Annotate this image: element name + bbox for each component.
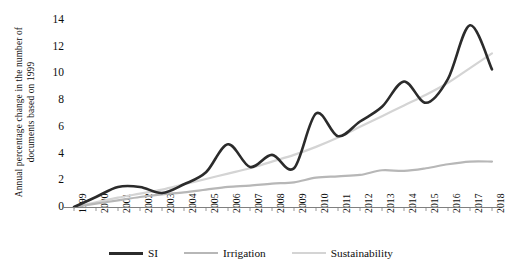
legend-swatch-icon [109,252,143,255]
legend-swatch-icon [292,252,326,254]
x-axis-tick-marks [74,208,492,211]
legend-item-sustainability[interactable]: Sustainability [292,247,393,259]
series-group [74,25,492,207]
legend-label: Sustainability [331,247,393,259]
legend-item-irrigation[interactable]: Irrigation [184,247,266,259]
legend-item-si[interactable]: SI [109,247,158,259]
legend-label: Irrigation [223,247,266,259]
series-line-irrigation [74,161,492,207]
chart-legend: SIIrrigationSustainability [0,247,502,259]
legend-label: SI [148,247,158,259]
series-line-si [74,25,492,207]
legend-swatch-icon [184,252,218,254]
